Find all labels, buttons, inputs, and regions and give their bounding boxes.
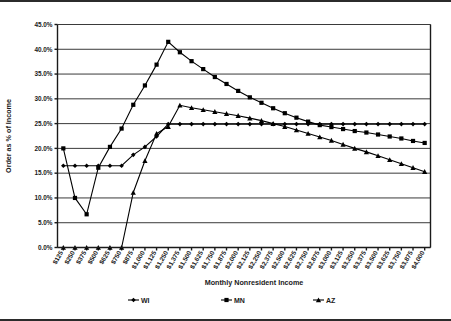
- marker-legend-WI: [131, 298, 136, 303]
- marker-MN-12: [201, 67, 205, 71]
- marker-WI-24: [341, 122, 346, 127]
- marker-MN-9: [166, 40, 170, 44]
- marker-MN-27: [376, 132, 380, 136]
- marker-MN-3: [96, 166, 100, 170]
- y-tick-label: 25.0%: [34, 120, 52, 127]
- marker-AZ-8: [154, 131, 159, 136]
- marker-WI-25: [352, 122, 357, 127]
- series-line-WI: [63, 124, 424, 166]
- x-tick-label: $625: [98, 249, 112, 266]
- marker-WI-11: [189, 122, 194, 127]
- marker-MN-11: [189, 59, 193, 63]
- marker-MN-23: [329, 125, 333, 129]
- marker-WI-2: [84, 163, 89, 168]
- series-line-MN: [63, 42, 424, 214]
- y-tick-label: 15.0%: [34, 169, 52, 176]
- marker-WI-12: [201, 122, 206, 127]
- legend-label-WI[interactable]: WI: [141, 297, 150, 304]
- series-line-AZ: [63, 105, 424, 247]
- x-tick-label: $750: [109, 249, 123, 266]
- x-tick-label: $250: [63, 249, 77, 266]
- marker-MN-21: [306, 120, 310, 124]
- x-tick-label: $500: [86, 249, 100, 266]
- figure-frame: 0.0%5.0%10.0%15.0%20.0%25.0%30.0%35.0%40…: [0, 0, 451, 321]
- y-tick-label: 20.0%: [34, 145, 52, 152]
- marker-WI-16: [248, 122, 253, 127]
- marker-MN-16: [248, 95, 252, 99]
- marker-AZ-7: [142, 158, 147, 163]
- marker-MN-30: [411, 139, 415, 143]
- marker-MN-15: [236, 89, 240, 93]
- marker-MN-0: [61, 146, 65, 150]
- marker-WI-0: [61, 163, 66, 168]
- marker-MN-28: [388, 134, 392, 138]
- marker-MN-17: [259, 101, 263, 105]
- marker-MN-24: [341, 127, 345, 131]
- y-tick-label: 0.0%: [38, 244, 53, 251]
- x-tick-label: $375: [74, 249, 88, 266]
- chart-canvas: 0.0%5.0%10.0%15.0%20.0%25.0%30.0%35.0%40…: [0, 2, 451, 321]
- marker-MN-8: [154, 63, 158, 67]
- marker-MN-22: [318, 123, 322, 127]
- y-tick-label: 5.0%: [38, 219, 53, 226]
- marker-WI-13: [213, 122, 218, 127]
- marker-MN-13: [213, 75, 217, 79]
- marker-MN-29: [399, 136, 403, 140]
- x-tick-label: $125: [51, 249, 65, 266]
- y-tick-label: 40.0%: [34, 46, 52, 53]
- marker-MN-20: [294, 116, 298, 120]
- y-tick-label: 35.0%: [34, 70, 52, 77]
- marker-MN-7: [143, 83, 147, 87]
- marker-WI-14: [224, 122, 229, 127]
- marker-MN-10: [178, 50, 182, 54]
- marker-WI-27: [376, 122, 381, 127]
- y-axis-title: Order as % of Income: [4, 99, 13, 173]
- y-tick-label: 30.0%: [34, 95, 52, 102]
- marker-WI-31: [422, 122, 427, 127]
- legend-label-AZ[interactable]: AZ: [326, 297, 336, 304]
- marker-MN-5: [120, 126, 124, 130]
- marker-AZ-6: [131, 190, 136, 195]
- marker-MN-26: [364, 130, 368, 134]
- y-tick-label: 10.0%: [34, 194, 52, 201]
- x-axis-title: Monthly Nonresident Income: [205, 278, 304, 287]
- marker-WI-26: [364, 122, 369, 127]
- marker-WI-28: [387, 122, 392, 127]
- marker-MN-6: [131, 103, 135, 107]
- legend-label-MN[interactable]: MN: [234, 297, 245, 304]
- marker-WI-1: [73, 163, 78, 168]
- y-tick-label: 45.0%: [34, 21, 52, 28]
- marker-MN-18: [271, 106, 275, 110]
- marker-WI-29: [399, 122, 404, 127]
- marker-WI-10: [178, 122, 183, 127]
- marker-MN-14: [224, 82, 228, 86]
- marker-WI-4: [108, 163, 113, 168]
- marker-legend-MN: [224, 298, 228, 302]
- marker-MN-2: [85, 212, 89, 216]
- marker-MN-31: [423, 141, 427, 145]
- marker-WI-15: [236, 122, 241, 127]
- marker-WI-20: [294, 122, 299, 127]
- marker-MN-4: [108, 145, 112, 149]
- marker-MN-25: [353, 129, 357, 133]
- marker-MN-1: [73, 196, 77, 200]
- marker-WI-30: [411, 122, 416, 127]
- marker-MN-19: [283, 111, 287, 115]
